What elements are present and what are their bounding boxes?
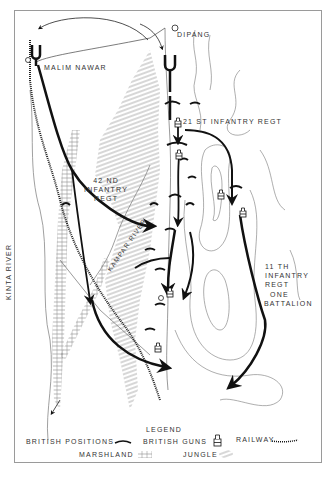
legend-item-jungle: JUNGLE [183, 451, 218, 458]
legend-label: RAILWAY [236, 436, 275, 443]
british-position-arc-icon [115, 441, 131, 443]
legend-label: JUNGLE [183, 451, 218, 458]
legend-item-railway: RAILWAY [236, 436, 275, 443]
place-label-malim-nawar: MALIM NAWAR [44, 63, 107, 72]
route-arrow [40, 18, 148, 40]
marshland-hatch-icon [138, 451, 152, 458]
unit-label-11th-line: INFANTRY [265, 271, 309, 280]
unit-label-battalion: ONE BATTALION [264, 290, 313, 308]
legend-label: BRITISH GUNS [143, 438, 207, 445]
legend-label: MARSHLAND [79, 451, 134, 458]
river-label-kinta: KINTA RIVER [4, 244, 13, 300]
unit-label-42nd-line: REGT [84, 194, 128, 203]
railway-line-icon [272, 440, 298, 442]
battalion-line: BATTALION [264, 299, 313, 308]
town-marker [159, 296, 164, 301]
jungle-hatch-icon [219, 450, 233, 458]
gun-symbol-icon [214, 435, 221, 446]
contour-lines [175, 30, 300, 406]
legend-item-british-guns: BRITISH GUNS [143, 438, 207, 445]
jungle-area [95, 50, 160, 410]
road [36, 28, 165, 62]
legend-title: LEGEND [146, 426, 182, 433]
town-marker-malim-nawar [26, 58, 31, 63]
place-label-dipang: DIPANG [177, 30, 211, 39]
legend-item-british-positions: BRITISH POSITIONS [26, 438, 114, 445]
british-guns [155, 118, 246, 352]
unit-label-11th-line: REGT [265, 280, 309, 289]
legend-label: BRITISH POSITIONS [26, 438, 114, 445]
unit-label-11th: 11 TH INFANTRY REGT [265, 262, 309, 289]
battle-map [0, 0, 331, 481]
battalion-line: ONE [264, 290, 313, 299]
unit-label-21st: 21 ST INFANTRY REGT [183, 117, 282, 126]
unit-label-42nd-line: 42 ND [84, 176, 128, 185]
unit-label-11th-line: 11 TH [265, 262, 309, 271]
unit-label-42nd: 42 ND INFANTRY REGT [84, 176, 128, 203]
unit-label-42nd-line: INFANTRY [84, 185, 128, 194]
kinta-river [30, 90, 51, 440]
legend-item-marshland: MARSHLAND [79, 451, 134, 458]
